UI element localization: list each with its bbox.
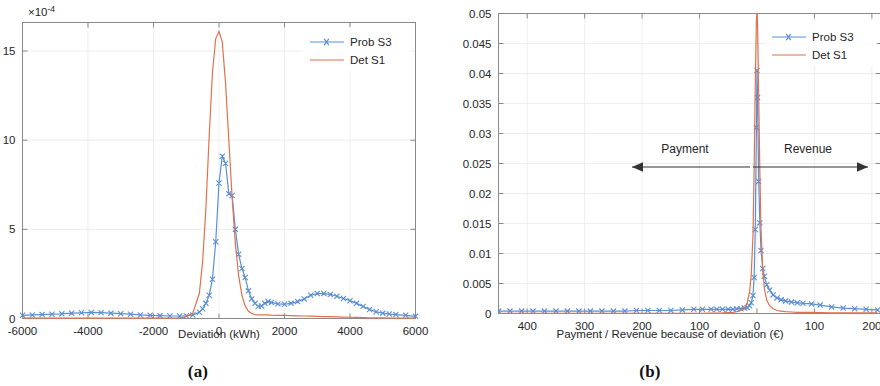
y-tick-label: 0.03 <box>469 128 491 140</box>
legend-label-det-s1-b: Det S1 <box>812 49 847 61</box>
annotations-b: Payment Revenue <box>632 142 868 172</box>
legend-b[interactable]: Prob S3 Det S1 <box>765 22 877 66</box>
x-tick-label: 400 <box>518 320 537 332</box>
subfigure-caption-b: (b) <box>430 362 870 382</box>
x-axis-title-a: Deviation (kWh) <box>178 328 260 340</box>
panel-b: 4003002001000100200 00.0050.010.0150.020… <box>440 0 880 386</box>
subfigure-caption-a: (a) <box>0 362 418 382</box>
y-tick-label: 0.015 <box>463 218 492 230</box>
y-axis-exponent-power-a: -4 <box>48 4 56 14</box>
y-tick-labels-b: 00.0050.010.0150.020.0250.030.0350.040.0… <box>463 8 492 320</box>
y-tick-label: 0.005 <box>463 278 492 290</box>
figure-row: -6000-4000-20000200040006000 051015 ×10-… <box>0 0 880 386</box>
y-tick-label: 0.025 <box>463 158 492 170</box>
x-tick-label: -6000 <box>8 325 37 337</box>
annotation-label-payment: Payment <box>661 142 709 156</box>
legend-label-prob-s3-a: Prob S3 <box>350 36 392 48</box>
y-tick-label: 0.01 <box>469 248 491 260</box>
y-tick-label: 0.04 <box>469 68 492 80</box>
legend-label-prob-s3-b: Prob S3 <box>812 31 854 43</box>
y-axis-exponent-base-a: ×10 <box>28 6 48 18</box>
series-markers-prob-s3 <box>496 68 880 314</box>
y-axis-exponent-a: ×10-4 <box>28 4 55 18</box>
x-axis-title-b: Payment / Revenue because of deviation (… <box>557 328 784 340</box>
y-tick-label: 0.035 <box>463 98 492 110</box>
chart-a: -6000-4000-20000200040006000 051015 ×10-… <box>0 0 440 340</box>
annotation-label-revenue: Revenue <box>784 142 832 156</box>
y-tick-label: 0.02 <box>469 188 491 200</box>
legend-label-det-s1-a: Det S1 <box>350 54 385 66</box>
x-tick-label: 200 <box>862 320 880 332</box>
y-tick-label: 15 <box>3 45 16 57</box>
y-tick-label: 0.05 <box>469 8 491 20</box>
y-tick-label: 10 <box>3 134 16 146</box>
x-tick-label: 100 <box>805 320 824 332</box>
y-tick-label: 0 <box>485 308 491 320</box>
y-tick-label: 5 <box>9 223 15 235</box>
x-tick-label: -4000 <box>73 325 102 337</box>
series-line-prob-s3 <box>499 71 878 312</box>
y-tick-label: 0.045 <box>463 38 492 50</box>
x-tick-label: 4000 <box>337 325 363 337</box>
x-tick-label: 2000 <box>272 325 298 337</box>
x-tick-label: 6000 <box>403 325 429 337</box>
y-tick-labels-a: 051015 <box>3 45 16 324</box>
y-tick-label: 0 <box>9 313 15 325</box>
chart-b: 4003002001000100200 00.0050.010.0150.020… <box>440 0 880 340</box>
x-tick-label: -2000 <box>139 325 168 337</box>
panel-a: -6000-4000-20000200040006000 051015 ×10-… <box>0 0 440 386</box>
legend-a[interactable]: Prob S3 Det S1 <box>303 27 415 71</box>
